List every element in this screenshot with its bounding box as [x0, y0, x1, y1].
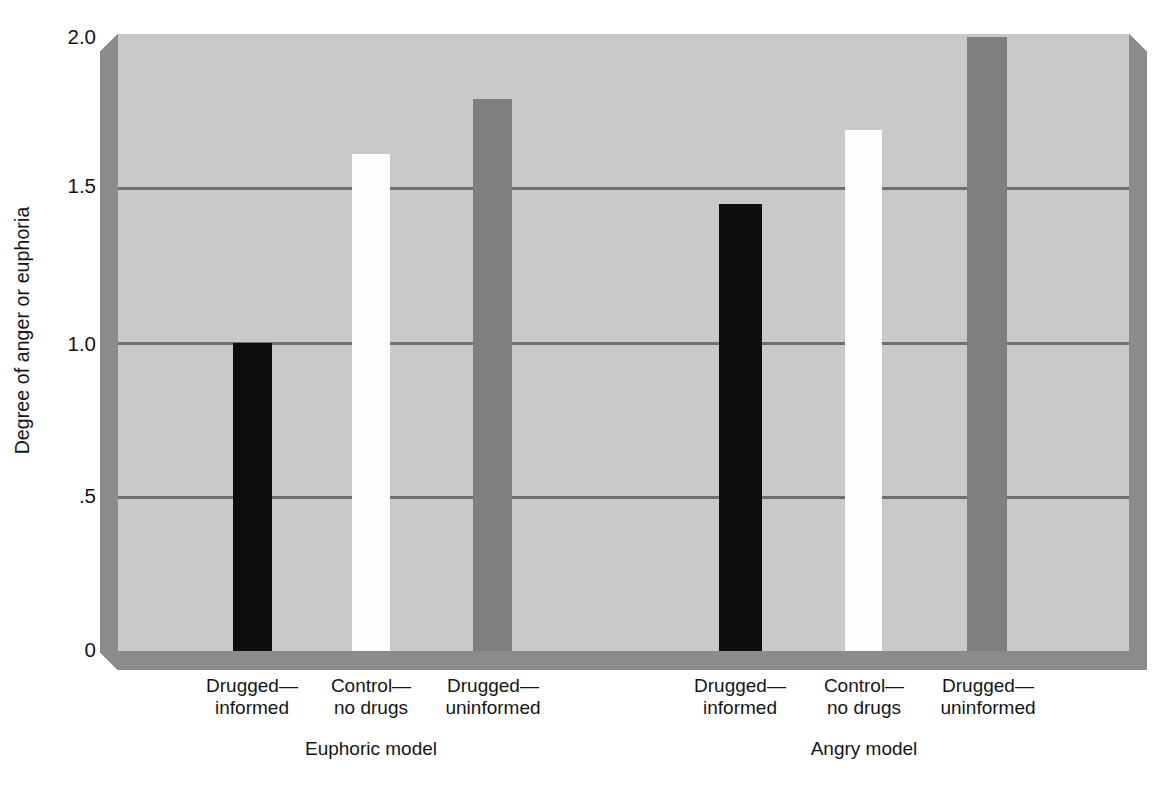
panel-shadow-right [1129, 34, 1147, 670]
bar-euphoric-drugged-informed [233, 343, 272, 652]
category-label-line1: Drugged— [383, 675, 603, 697]
y-tick-0: 0 [0, 640, 96, 661]
plot-area [118, 34, 1129, 651]
panel-bevel-top-right [1129, 34, 1147, 52]
panel-shadow-bottom [100, 651, 1147, 670]
panel-bevel-top-left [100, 34, 118, 52]
y-tick-2-0: 2.0 [0, 27, 96, 48]
y-tick-1-5: 1.5 [0, 176, 96, 197]
bar-angry-drugged-uninformed [967, 37, 1007, 651]
bar-chart-figure: Degree of anger or euphoria 2.0 1.5 1.0 … [0, 0, 1171, 801]
bar-euphoric-drugged-uninformed [473, 99, 512, 651]
category-label-euphoric-drugged-uninformed: Drugged— uninformed [383, 675, 603, 720]
category-label-line2: uninformed [878, 697, 1098, 719]
bar-angry-drugged-informed [719, 204, 762, 651]
group-label-euphoric-model: Euphoric model [231, 738, 511, 760]
category-label-line2: uninformed [383, 697, 603, 719]
group-label-angry-model: Angry model [724, 738, 1004, 760]
panel-bevel-bottom-left [100, 652, 118, 670]
category-label-line1: Drugged— [878, 675, 1098, 697]
bar-angry-control-no-drugs [845, 130, 882, 651]
y-tick-1-0: 1.0 [0, 334, 96, 355]
panel-shadow-left [100, 34, 118, 670]
y-tick-0-5: .5 [0, 486, 96, 507]
y-axis-tick-labels: 2.0 1.5 1.0 .5 0 [0, 0, 96, 700]
bar-euphoric-control-no-drugs [352, 154, 390, 651]
category-label-angry-drugged-uninformed: Drugged— uninformed [878, 675, 1098, 720]
